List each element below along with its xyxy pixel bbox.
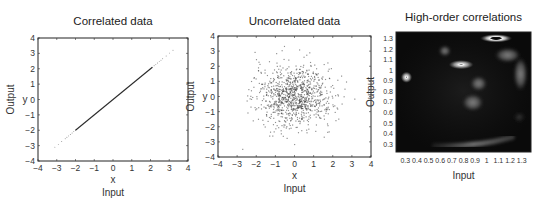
x-tick-label: 0.3 bbox=[400, 157, 410, 164]
x-tick-label: 1.3 bbox=[517, 157, 527, 164]
outer-x-label: Input bbox=[283, 183, 305, 194]
x-tick-label: 4 bbox=[369, 159, 374, 169]
x-tick-label: 0.5 bbox=[424, 157, 434, 164]
y-tick-label: 0.4 bbox=[383, 130, 393, 137]
y-tick-label: 4 bbox=[210, 31, 215, 41]
y-tick-label: −4 bbox=[205, 152, 215, 162]
y-tick-label: 1.3 bbox=[383, 35, 393, 42]
x-tick-label: 0 bbox=[111, 163, 116, 173]
y-tick-label: −4 bbox=[25, 156, 35, 166]
outer-y-label: Output bbox=[365, 77, 376, 107]
y-tick-label: 0.8 bbox=[383, 88, 393, 95]
x-tick-label: −1 bbox=[89, 163, 99, 173]
x-tick-label: 1 bbox=[485, 157, 489, 164]
chart-title: Correlated data bbox=[73, 15, 153, 27]
x-tick-labels: −4−3−2−101234 bbox=[213, 159, 373, 169]
y-tick-labels: 0.30.40.50.60.70.80.911.11.21.3 bbox=[383, 35, 393, 147]
y-tick-label: 0.3 bbox=[383, 141, 393, 148]
outer-x-label: Input bbox=[452, 170, 474, 181]
plot-area bbox=[54, 50, 173, 148]
y-tick-label: −2 bbox=[205, 122, 215, 132]
x-tick-label: 3 bbox=[167, 163, 172, 173]
x-tick-label: 3 bbox=[350, 159, 355, 169]
x-tick-label: −3 bbox=[52, 163, 62, 173]
y-tick-label: −1 bbox=[205, 107, 215, 117]
y-tick-label: 0.6 bbox=[383, 109, 393, 116]
y-tick-label: 2 bbox=[30, 64, 35, 74]
y-tick-label: 2 bbox=[210, 61, 215, 71]
y-tick-label: −2 bbox=[25, 125, 35, 135]
y-tick-label: 0 bbox=[30, 95, 35, 105]
heatmap-area bbox=[389, 25, 538, 157]
y-tick-label: 0.5 bbox=[383, 120, 393, 127]
y-tick-label: −1 bbox=[25, 110, 35, 120]
x-tick-label: 1.1 bbox=[494, 157, 504, 164]
x-tick-labels: −4−3−2−101234 bbox=[33, 163, 190, 173]
y-tick-label: 0.7 bbox=[383, 98, 393, 105]
x-tick-label: 1 bbox=[129, 163, 134, 173]
outer-x-label: Input bbox=[102, 187, 124, 198]
x-tick-label: 0.4 bbox=[412, 157, 422, 164]
x-tick-label: 0.6 bbox=[435, 157, 445, 164]
panel-correlated-data: Correlated data −4−3−2−101234 −4−3−2−101… bbox=[5, 15, 191, 198]
y-tick-label: 1 bbox=[210, 76, 215, 86]
x-tick-label: 0.7 bbox=[447, 157, 457, 164]
y-tick-label: 1.1 bbox=[383, 56, 393, 63]
x-tick-label: 2 bbox=[330, 159, 335, 169]
outer-y-label: Output bbox=[5, 84, 16, 114]
y-tick-label: 3 bbox=[210, 46, 215, 56]
x-axis-label: x bbox=[292, 170, 297, 181]
x-tick-label: 0 bbox=[292, 159, 297, 169]
x-tick-label: −2 bbox=[71, 163, 81, 173]
axes-frame bbox=[218, 36, 371, 157]
y-tick-label: 1.2 bbox=[383, 46, 393, 53]
outer-y-label: Output bbox=[185, 81, 196, 111]
y-tick-label: 1 bbox=[30, 79, 35, 89]
x-tick-label: 1 bbox=[311, 159, 316, 169]
y-tick-label: 4 bbox=[30, 33, 35, 43]
plot-area bbox=[242, 46, 369, 150]
y-tick-label: 0 bbox=[210, 92, 215, 102]
chart-title: High-order correlations bbox=[405, 11, 522, 23]
y-axis-label: y bbox=[23, 94, 28, 105]
panel-uncorrelated-data: Uncorrelated data −4−3−2−101234 −4−3−2−1… bbox=[185, 15, 374, 194]
x-tick-label: −3 bbox=[232, 159, 242, 169]
x-axis-label: x bbox=[111, 174, 116, 185]
x-tick-label: −2 bbox=[251, 159, 261, 169]
x-tick-label: 1.2 bbox=[505, 157, 515, 164]
y-tick-label: 1 bbox=[389, 67, 393, 74]
x-tick-label: −1 bbox=[271, 159, 281, 169]
chart-title: Uncorrelated data bbox=[249, 15, 341, 27]
y-tick-label: 0.9 bbox=[383, 77, 393, 84]
y-axis-label: y bbox=[203, 91, 208, 102]
x-tick-labels: 0.30.40.50.60.70.80.911.11.21.3 bbox=[400, 157, 526, 164]
x-tick-label: 0.9 bbox=[470, 157, 480, 164]
y-tick-label: −3 bbox=[25, 141, 35, 151]
y-tick-label: −3 bbox=[205, 137, 215, 147]
panel-high-order-correlations: High-order correlations 0.30.40.50.60.70… bbox=[365, 11, 538, 181]
x-tick-label: 0.8 bbox=[459, 157, 469, 164]
y-tick-label: 3 bbox=[30, 48, 35, 58]
figure-canvas: Correlated data −4−3−2−101234 −4−3−2−101… bbox=[0, 0, 541, 205]
x-tick-label: 2 bbox=[148, 163, 153, 173]
x-tick-label: 4 bbox=[186, 163, 191, 173]
